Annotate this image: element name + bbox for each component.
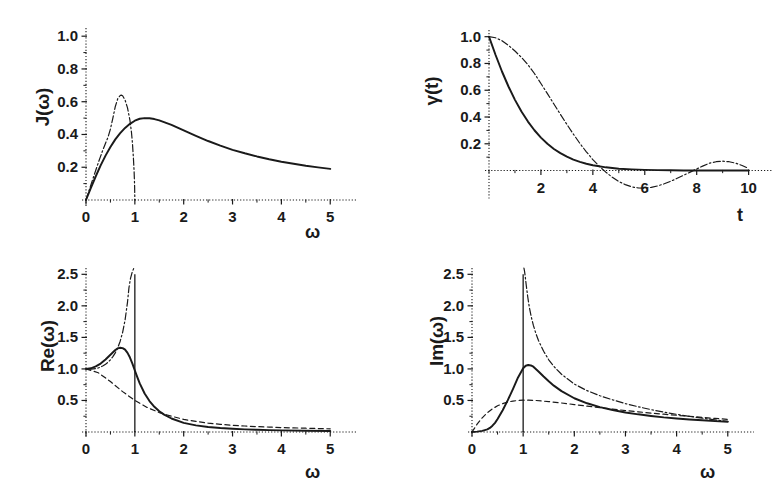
- x-axis-label: ω: [700, 462, 715, 482]
- x-axis-label: t: [737, 205, 743, 226]
- x-tick-label: 5: [714, 440, 742, 457]
- panel-Im-omega: 0.51.01.52.02.5012345Im(ω)ω: [0, 0, 772, 482]
- y-tick-label: 0.4: [38, 125, 78, 142]
- y-tick-label: 2.0: [424, 297, 464, 314]
- y-axis-label: Im(ω): [426, 316, 448, 366]
- y-axis-label: γ(t): [421, 77, 443, 106]
- x-tick-label: 8: [683, 179, 711, 196]
- panel-Re-omega: 0.51.01.52.02.5012345Re(ω)ω: [0, 0, 772, 482]
- y-tick-label: 0.8: [441, 54, 481, 71]
- curve-debye-semicircular-cutoff: [86, 95, 135, 200]
- x-tick-label: 6: [631, 179, 659, 196]
- x-tick-label: 0: [72, 440, 100, 457]
- y-tick-label: 1.5: [38, 328, 78, 345]
- x-tick-label: 0: [458, 440, 486, 457]
- y-tick-label: 0.6: [441, 81, 481, 98]
- curve-divergent-dashdot: [88, 268, 134, 369]
- y-tick-label: 1.0: [424, 360, 464, 377]
- x-tick-label: 4: [267, 208, 295, 225]
- y-tick-label: 2.0: [38, 297, 78, 314]
- x-tick-label: 4: [579, 179, 607, 196]
- curve-baseline-dashed: [472, 400, 728, 432]
- x-tick-label: 5: [316, 440, 344, 457]
- x-tick-label: 3: [611, 440, 639, 457]
- y-axis-label: J(ω): [32, 88, 54, 126]
- y-tick-label: 0.5: [38, 391, 78, 408]
- panel-J-omega: 0.20.40.60.81.0012345J(ω)ω: [0, 0, 772, 482]
- x-axis-label: ω: [305, 462, 320, 482]
- y-tick-label: 2.5: [424, 265, 464, 282]
- y-tick-label: 1.0: [441, 28, 481, 45]
- x-tick-label: 2: [527, 179, 555, 196]
- curve-exponential-decay: [489, 37, 749, 171]
- x-axis-label: ω: [305, 222, 320, 243]
- x-tick-label: 10: [735, 179, 763, 196]
- curve-divergent-dashdot: [524, 268, 728, 421]
- curve-full-response-solid: [86, 348, 330, 431]
- curve-bessel-oscillatory: [489, 37, 749, 188]
- y-tick-label: 2.5: [38, 265, 78, 282]
- curve-ohmic-lorentzian-cutoff: [86, 118, 330, 200]
- panel-gamma-t: 0.20.40.60.81.0246810γ(t)t: [0, 0, 772, 482]
- x-tick-label: 1: [121, 440, 149, 457]
- y-tick-label: 1.0: [38, 360, 78, 377]
- curve-baseline-dashed: [86, 369, 330, 429]
- y-tick-label: 0.6: [38, 93, 78, 110]
- y-tick-label: 0.2: [38, 158, 78, 175]
- x-tick-label: 1: [509, 440, 537, 457]
- figure-canvas: 0.20.40.60.81.0012345J(ω)ω0.20.40.60.81.…: [0, 0, 772, 482]
- y-tick-label: 1.5: [424, 328, 464, 345]
- x-tick-label: 2: [170, 440, 198, 457]
- x-tick-label: 2: [560, 440, 588, 457]
- x-tick-label: 0: [72, 208, 100, 225]
- y-tick-label: 1.0: [38, 27, 78, 44]
- y-tick-label: 0.2: [441, 135, 481, 152]
- x-tick-label: 3: [219, 440, 247, 457]
- x-tick-label: 4: [267, 440, 295, 457]
- x-tick-label: 3: [219, 208, 247, 225]
- y-tick-label: 0.5: [424, 391, 464, 408]
- x-tick-label: 1: [121, 208, 149, 225]
- y-tick-label: 0.8: [38, 60, 78, 77]
- y-tick-label: 0.4: [441, 108, 481, 125]
- y-axis-label: Re(ω): [37, 320, 59, 372]
- curve-full-response-solid: [472, 365, 728, 432]
- x-tick-label: 4: [663, 440, 691, 457]
- x-tick-label: 2: [170, 208, 198, 225]
- x-tick-label: 5: [316, 208, 344, 225]
